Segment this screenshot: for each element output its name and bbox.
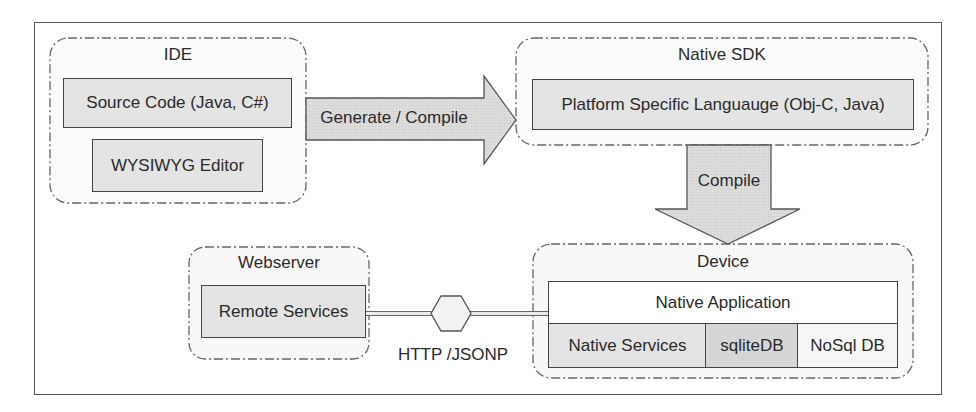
remote-services-box: Remote Services bbox=[201, 285, 366, 338]
ide-label: IDE bbox=[50, 45, 306, 65]
generate-compile-label: Generate / Compile bbox=[306, 108, 482, 128]
device-label: Device bbox=[533, 252, 913, 272]
http-jsonp-label: HTTP /JSONP bbox=[388, 345, 518, 365]
source-code-box: Source Code (Java, C#) bbox=[63, 78, 292, 128]
compile-label: Compile bbox=[687, 171, 771, 191]
wysiwyg-editor-box: WYSIWYG Editor bbox=[92, 139, 263, 192]
platform-language-box: Platform Specific Languauge (Obj-C, Java… bbox=[532, 79, 914, 130]
nosql-db-box: NoSql DB bbox=[797, 323, 898, 368]
sqlitedb-box: sqliteDB bbox=[705, 323, 799, 368]
native-sdk-label: Native SDK bbox=[516, 45, 928, 65]
compile-arrow bbox=[655, 145, 800, 244]
webserver-label: Webserver bbox=[189, 253, 369, 273]
native-application-box: Native Application bbox=[548, 281, 898, 325]
connector-hexagon-icon bbox=[431, 296, 471, 331]
native-services-box: Native Services bbox=[548, 323, 707, 368]
